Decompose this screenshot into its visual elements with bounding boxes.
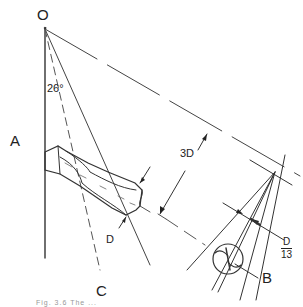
arrowhead-icon [202, 134, 207, 141]
centerline-c [45, 29, 100, 270]
arrowhead-icon [236, 209, 243, 214]
label-fraction-d-13: D 13 [281, 237, 292, 260]
fraction-denominator: 13 [281, 250, 292, 260]
fraction-numerator: D [283, 237, 290, 247]
3d-dimension-line [160, 171, 185, 214]
label-axis-c: C [96, 283, 107, 298]
label-angle: 26° [47, 83, 64, 94]
dashed-projection-line [166, 219, 205, 245]
arrowhead-icon [140, 177, 145, 183]
reference-line-upper [45, 29, 300, 176]
label-diameter-d: D [106, 234, 114, 245]
label-origin-o: O [37, 7, 49, 22]
drill-geometry-diagram [0, 0, 303, 307]
drill-tip [140, 190, 143, 206]
figure-caption: Fig. 3.6 The ... [36, 299, 97, 306]
d-extension-line [140, 206, 150, 212]
label-axis-a: A [10, 133, 20, 148]
cross-section-web [226, 248, 230, 270]
origin-point [44, 27, 46, 29]
drill-outline [45, 146, 142, 215]
reference-line-drill-edge [45, 29, 150, 265]
label-axis-b: B [262, 270, 272, 285]
d13-bar [251, 219, 260, 225]
3d-extension-line [158, 214, 166, 219]
drill-flute-1 [58, 146, 60, 174]
label-offset-3d: 3D [180, 148, 194, 159]
